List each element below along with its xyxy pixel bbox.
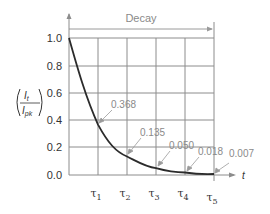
y-axis-label: It Ipk bbox=[17, 89, 42, 118]
y-axis-arrowhead-icon bbox=[67, 13, 72, 19]
y-tick-labels: 1.0 0.8 0.6 0.4 0.2 0.0 bbox=[47, 32, 62, 181]
annotation-tau3: 0.050 bbox=[169, 140, 194, 151]
y-label-denominator: Ipk bbox=[22, 105, 33, 118]
x-tick-tau4: τ4 bbox=[177, 187, 188, 202]
y-tick: 0.4 bbox=[47, 114, 62, 126]
x-axis-label: t bbox=[242, 170, 246, 181]
decay-curve bbox=[69, 38, 214, 174]
x-axis-arrowhead-icon bbox=[229, 173, 236, 178]
y-tick: 1.0 bbox=[47, 32, 62, 44]
decay-chart: Decay t 1.0 0.8 0.6 0.4 0.2 0.0 τ1 τ2 τ3… bbox=[0, 0, 270, 214]
annotation-tau1: 0.368 bbox=[111, 99, 136, 110]
decay-arrowhead-icon bbox=[207, 27, 213, 32]
annotation-arrows bbox=[99, 110, 229, 173]
x-tick-labels: τ1 τ2 τ3 τ4 τ5 bbox=[90, 187, 217, 206]
y-label-numerator: It bbox=[24, 90, 30, 102]
x-tick-tau2: τ2 bbox=[119, 187, 130, 202]
x-tick-tau1: τ1 bbox=[90, 187, 101, 202]
y-tick: 0.6 bbox=[47, 87, 62, 99]
annotation-tau2: 0.135 bbox=[140, 127, 165, 138]
chart-title: Decay bbox=[125, 12, 157, 24]
x-tick-tau3: τ3 bbox=[148, 187, 159, 202]
x-tick-tau5: τ5 bbox=[206, 191, 217, 206]
y-tick: 0.2 bbox=[47, 141, 62, 153]
y-tick: 0.8 bbox=[47, 60, 62, 72]
annotation-tau4: 0.018 bbox=[198, 146, 223, 157]
annotation-tau5: 0.007 bbox=[229, 148, 254, 159]
y-tick: 0.0 bbox=[47, 169, 62, 181]
